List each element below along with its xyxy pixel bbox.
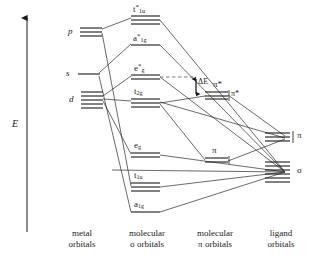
column-caption-metal-line2: orbitals [52, 239, 112, 250]
column-caption-metal: metal orbitals [52, 228, 112, 249]
mo-sigma-levels [131, 16, 160, 212]
column-caption-mo-pi-line1: molecular [184, 228, 246, 239]
level-label-t1u-star: t*1u [133, 4, 145, 14]
diagram-canvas [0, 0, 324, 267]
column-caption-mo-pi-line2: π orbitals [184, 239, 246, 250]
pi-star-label: π* [231, 89, 239, 98]
column-caption-mo-sigma-line1: molecular [116, 228, 178, 239]
level-label-s: s [66, 69, 70, 78]
level-label-lig-pi: π [297, 131, 302, 140]
column-caption-mo-sigma: molecular σ orbitals [116, 228, 178, 249]
level-label-p: p [68, 27, 73, 36]
level-label-eg: eg [134, 141, 141, 150]
level-label-t2g: t2g [134, 87, 143, 96]
column-caption-ligand: ligand orbitals [252, 228, 310, 249]
level-label-pi-mo: π [212, 146, 217, 155]
level-label-a1g-star: a*1g [133, 33, 147, 43]
delta-e-label: ΔE [198, 77, 208, 86]
column-caption-ligand-line1: ligand [252, 228, 310, 239]
column-caption-metal-line1: metal [52, 228, 112, 239]
mo-diagram: E p s d t*1u a*1g e*g t2g eg t1u a1g π* … [0, 0, 324, 267]
column-caption-mo-sigma-line2: σ orbitals [116, 239, 178, 250]
level-label-eg-star: e*g [134, 63, 145, 73]
energy-axis-label: E [12, 118, 18, 129]
metal-levels [78, 28, 103, 108]
column-caption-ligand-line2: orbitals [252, 239, 310, 250]
level-label-d: d [69, 95, 74, 104]
correlation-lines [99, 18, 285, 212]
column-caption-mo-pi: molecular π orbitals [184, 228, 246, 249]
level-label-a1g: a1g [134, 200, 144, 209]
level-label-pi-star-mo: π* [213, 80, 222, 89]
level-label-t1u: t1u [134, 171, 143, 180]
level-label-lig-sigma: σ [297, 166, 302, 175]
